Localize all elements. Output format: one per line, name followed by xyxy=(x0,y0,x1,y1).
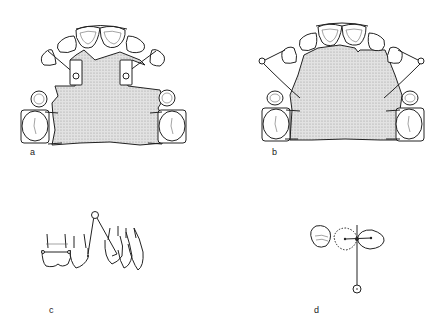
panel-label-b: b xyxy=(272,147,277,157)
panel-b-plate-diagram xyxy=(259,23,424,141)
panel-d-schematic xyxy=(311,225,384,293)
panel-a-plate-diagram xyxy=(21,26,186,146)
panel-label-c: c xyxy=(49,305,54,315)
panel-label-a: a xyxy=(30,147,35,157)
diagram-canvas xyxy=(0,0,446,328)
panel-c-lateral-view xyxy=(42,212,144,271)
panel-label-d: d xyxy=(314,305,319,315)
